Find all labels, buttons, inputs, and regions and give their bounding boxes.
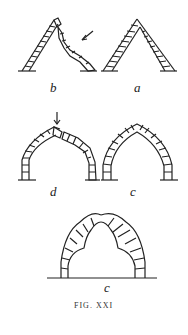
label-a: a: [134, 80, 141, 96]
label-c-upper: c: [130, 184, 136, 200]
panel-b-arch: [18, 18, 97, 71]
figure-drawing: [0, 0, 188, 335]
panel-a-arch: [101, 19, 177, 71]
panel-c-cusped-arch: [47, 214, 157, 278]
label-b: b: [50, 80, 57, 96]
panel-d-arch: [18, 127, 100, 180]
panel-c-arch: [101, 124, 178, 180]
force-arrow-b: [82, 31, 93, 40]
label-d: d: [50, 184, 57, 200]
load-arrow-d: [54, 112, 60, 124]
label-c-lower: c: [104, 280, 110, 296]
figure-caption: FIG. XXI: [74, 301, 113, 310]
